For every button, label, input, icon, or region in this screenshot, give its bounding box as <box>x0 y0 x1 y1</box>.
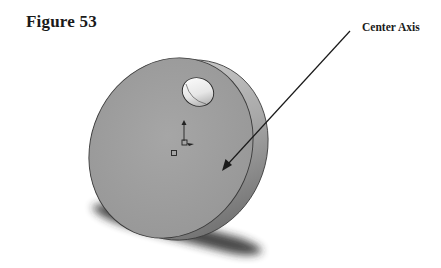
cad-scene <box>0 0 441 268</box>
disk-face <box>60 31 281 264</box>
